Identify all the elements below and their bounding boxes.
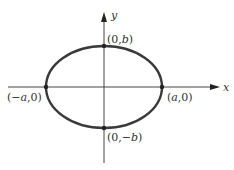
point-right-label: (a,0) [167,91,193,104]
y-axis-arrow-icon [101,12,107,22]
point-left-label: (−a,0) [7,91,42,104]
point-left-dot [44,85,48,89]
point-bottom-label: (0,−b) [107,131,142,144]
point-top-dot [102,44,106,48]
y-axis-label: y [110,9,118,22]
x-axis-label: x [223,81,230,94]
point-right-dot [160,85,164,89]
point-bottom-dot [102,126,106,130]
x-axis-arrow-icon [210,84,220,90]
point-top-label: (0,b) [107,33,133,46]
ellipse-diagram: x y (0,b) (−a,0) (a,0) (0,−b) [0,0,234,170]
